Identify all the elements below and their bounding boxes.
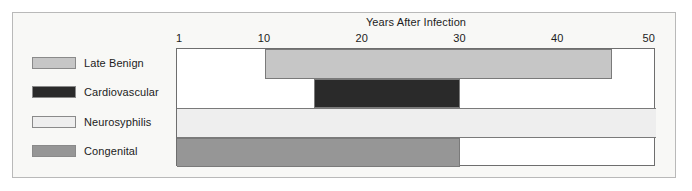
legend-item[interactable]: Late Benign — [32, 48, 172, 78]
x-axis-tick-label: 30 — [453, 32, 465, 44]
legend-item[interactable]: Congenital — [32, 137, 172, 167]
legend-swatch — [32, 57, 76, 69]
chart-title: Years After Infection — [176, 16, 656, 28]
x-axis-tick-label: 50 — [643, 32, 655, 44]
legend-label: Neurosyphilis — [84, 116, 151, 128]
x-axis-tick-label: 40 — [551, 32, 563, 44]
bar-late-benign[interactable] — [265, 49, 612, 79]
x-axis: 11020304050 — [176, 32, 655, 48]
x-axis-tick-label: 1 — [176, 32, 182, 44]
legend-item[interactable]: Neurosyphilis — [32, 107, 172, 137]
legend-label: Congenital — [84, 145, 138, 157]
bar-neurosyphilis[interactable] — [177, 108, 656, 138]
legend-label: Cardiovascular — [84, 86, 159, 98]
legend-swatch — [32, 145, 76, 157]
legend-item[interactable]: Cardiovascular — [32, 78, 172, 108]
chart-figure: Years After Infection 11020304050 Late B… — [0, 0, 692, 191]
bar-row — [177, 79, 654, 109]
bar-row — [177, 49, 654, 79]
plot-area — [176, 48, 655, 166]
chart-legend: Late BenignCardiovascularNeurosyphilisCo… — [32, 48, 172, 166]
x-axis-tick-label: 20 — [356, 32, 368, 44]
bar-row — [177, 108, 654, 138]
legend-swatch — [32, 116, 76, 128]
bar-row — [177, 138, 654, 168]
bar-congenital[interactable] — [177, 138, 460, 168]
legend-swatch — [32, 86, 76, 98]
legend-label: Late Benign — [84, 57, 144, 69]
bar-cardiovascular[interactable] — [314, 79, 461, 109]
x-axis-tick-label: 10 — [258, 32, 270, 44]
